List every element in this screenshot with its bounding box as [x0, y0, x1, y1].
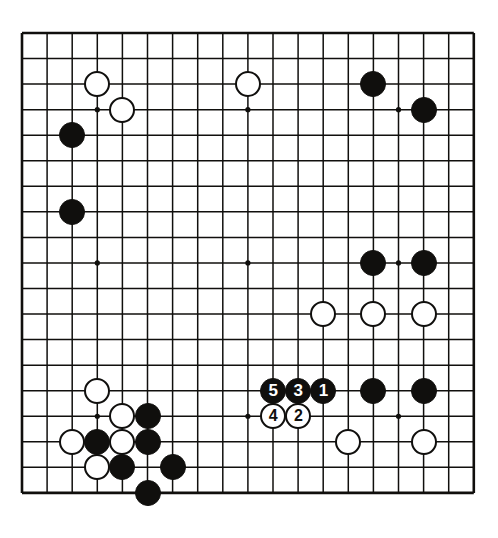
black-stone[interactable]	[135, 480, 161, 506]
star-point	[245, 414, 250, 419]
white-stone[interactable]	[84, 378, 110, 404]
white-stone[interactable]	[235, 71, 261, 97]
star-point	[396, 260, 401, 265]
star-point	[95, 414, 100, 419]
white-stone[interactable]	[411, 301, 437, 327]
star-point	[95, 107, 100, 112]
white-stone[interactable]	[59, 429, 85, 455]
stone-move-number: 4	[269, 408, 277, 424]
numbered-stone-1[interactable]: 1	[310, 378, 336, 404]
black-stone[interactable]	[411, 97, 437, 123]
white-stone[interactable]	[109, 97, 135, 123]
numbered-stone-3[interactable]: 3	[285, 378, 311, 404]
black-stone[interactable]	[84, 429, 110, 455]
black-stone[interactable]	[135, 403, 161, 429]
stone-move-number: 3	[294, 382, 303, 399]
black-stone[interactable]	[360, 378, 386, 404]
star-point	[245, 260, 250, 265]
white-stone[interactable]	[109, 429, 135, 455]
star-point	[396, 107, 401, 112]
star-point	[245, 107, 250, 112]
black-stone[interactable]	[59, 199, 85, 225]
black-stone[interactable]	[411, 250, 437, 276]
go-board-figure: 12345	[0, 0, 498, 538]
star-point	[396, 414, 401, 419]
star-point	[95, 260, 100, 265]
numbered-stone-5[interactable]: 5	[260, 378, 286, 404]
stone-move-number: 2	[294, 408, 302, 424]
stone-move-number: 5	[269, 382, 278, 399]
black-stone[interactable]	[411, 378, 437, 404]
white-stone[interactable]	[411, 429, 437, 455]
black-stone[interactable]	[135, 429, 161, 455]
black-stone[interactable]	[160, 454, 186, 480]
stone-move-number: 1	[319, 382, 328, 399]
white-stone[interactable]	[335, 429, 361, 455]
